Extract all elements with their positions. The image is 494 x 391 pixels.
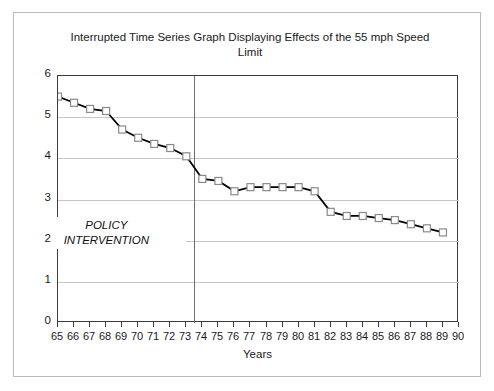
data-point-87 [407,221,414,228]
data-point-75 [215,177,222,184]
y-tick-label-6: 6 [27,67,51,79]
data-point-69 [119,126,126,133]
data-point-79 [279,184,286,191]
chart-title: Interrupted Time Series Graph Displaying… [60,30,440,60]
data-point-89 [439,229,446,236]
data-point-76 [231,188,238,195]
data-point-74 [199,175,206,182]
x-tick-90 [458,322,459,327]
y-tick-label-1: 1 [27,273,51,285]
data-point-80 [295,184,302,191]
x-tick-68 [105,322,106,327]
x-tick-77 [249,322,250,327]
data-point-70 [135,134,142,141]
x-axis-title: Years [57,348,458,360]
data-point-88 [423,225,430,232]
x-tick-87 [410,322,411,327]
data-point-68 [103,107,110,114]
data-point-81 [311,188,318,195]
x-tick-76 [233,322,234,327]
data-point-83 [343,212,350,219]
data-point-66 [71,99,78,106]
x-tick-89 [442,322,443,327]
x-tick-73 [185,322,186,327]
data-point-73 [183,153,190,160]
data-point-72 [167,145,174,152]
chart-figure: Interrupted Time Series Graph Displaying… [0,0,494,391]
y-tick-label-4: 4 [27,149,51,161]
data-point-65 [58,93,62,100]
x-tick-74 [201,322,202,327]
y-tick-label-3: 3 [27,191,51,203]
x-tick-72 [169,322,170,327]
x-tick-69 [121,322,122,327]
x-tick-67 [89,322,90,327]
data-point-84 [359,212,366,219]
x-tick-85 [378,322,379,327]
x-tick-70 [137,322,138,327]
data-point-77 [247,184,254,191]
data-point-71 [151,140,158,147]
y-tick-label-0: 0 [27,314,51,326]
x-tick-label-90: 90 [447,330,469,342]
y-tick-label-2: 2 [27,232,51,244]
data-point-82 [327,208,334,215]
data-point-67 [87,105,94,112]
x-tick-66 [73,322,74,327]
x-tick-84 [362,322,363,327]
x-tick-88 [426,322,427,327]
x-tick-65 [57,322,58,327]
x-tick-81 [314,322,315,327]
x-tick-79 [282,322,283,327]
data-point-86 [391,217,398,224]
x-tick-71 [153,322,154,327]
x-tick-80 [298,322,299,327]
x-tick-83 [346,322,347,327]
data-point-78 [263,184,270,191]
x-tick-86 [394,322,395,327]
x-tick-75 [217,322,218,327]
data-point-85 [375,215,382,222]
x-tick-78 [266,322,267,327]
plot-area: POLICY INTERVENTION [57,75,458,322]
x-tick-82 [330,322,331,327]
y-tick-label-5: 5 [27,108,51,120]
data-series-line [58,76,459,323]
